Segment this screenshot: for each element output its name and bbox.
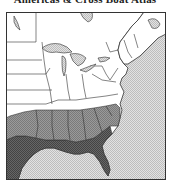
eastern-us-map xyxy=(6,12,166,180)
map-title: Americas & Cross Boat Atlas xyxy=(0,0,170,5)
